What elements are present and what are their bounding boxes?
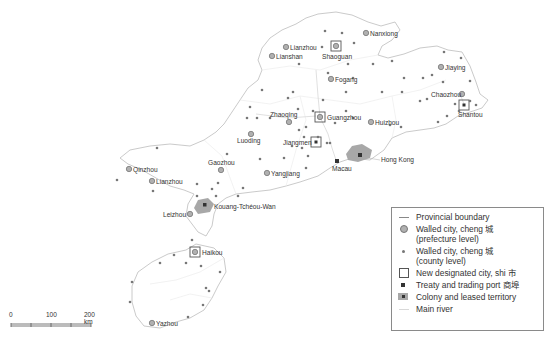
circle-icon	[398, 224, 410, 234]
svg-text:Lianshan: Lianshan	[276, 53, 303, 60]
scale-tick-200: 200 km	[84, 311, 95, 325]
svg-text:Luoding: Luoding	[237, 137, 261, 145]
scale-tick-100: 100	[46, 311, 57, 318]
legend-item-river: Main river	[398, 304, 543, 314]
svg-text:Qinzhou: Qinzhou	[133, 166, 158, 174]
svg-text:Yangjiang: Yangjiang	[271, 170, 300, 178]
svg-text:Shantou: Shantou	[458, 111, 483, 118]
svg-text:Leizhou: Leizhou	[163, 211, 186, 218]
svg-text:Zhaoqing: Zhaoqing	[270, 111, 298, 119]
label-hong-kong: Hong Kong	[381, 156, 414, 164]
svg-text:Chaozhou: Chaozhou	[431, 91, 461, 98]
svg-text:Yazhou: Yazhou	[156, 320, 178, 327]
line-icon	[398, 212, 410, 222]
river-line-icon	[398, 304, 410, 314]
hainan-boundary	[132, 244, 226, 328]
legend-item-colony: Colony and leased territory	[398, 292, 543, 302]
scale-tick-0: 0	[9, 311, 13, 318]
svg-text:Fogang: Fogang	[335, 76, 358, 84]
legend-item-prefecture: Walled city, cheng 城(prefecture level)	[398, 224, 543, 244]
square-icon	[398, 268, 410, 278]
legend-item-port: Treaty and trading port 商埠	[398, 280, 543, 290]
svg-text:Haikou: Haikou	[202, 249, 223, 256]
legend-item-county: Walled city, cheng 城(county level)	[398, 246, 543, 266]
legend-item-boundary: Provincial boundary	[398, 212, 543, 222]
scale-bar: 0 100 200 km	[10, 322, 94, 334]
svg-text:Jiangmen: Jiangmen	[283, 139, 312, 147]
svg-text:Lianzhou: Lianzhou	[290, 44, 317, 51]
svg-text:Nanxiong: Nanxiong	[370, 30, 398, 38]
filled-square-icon	[398, 280, 410, 290]
dot-icon	[398, 246, 410, 256]
legend-item-shi: New designated city, shi 市	[398, 268, 543, 278]
scale-bar-graphic	[10, 322, 94, 328]
svg-text:Shaoguan: Shaoguan	[322, 53, 352, 61]
map-legend: Provincial boundary Walled city, cheng 城…	[391, 207, 544, 331]
svg-text:Lianzhou: Lianzhou	[156, 178, 183, 185]
svg-text:Huizhou: Huizhou	[375, 119, 400, 126]
svg-text:Gaozhou: Gaozhou	[208, 159, 235, 166]
svg-text:Jiaying: Jiaying	[445, 64, 466, 72]
colony-kouang-tcheou-wan: Kouang-Tchéou-Wan	[194, 198, 276, 214]
shaded-area-icon	[398, 292, 410, 302]
svg-text:Guangzhou: Guangzhou	[327, 114, 361, 122]
label-kouang-tcheou-wan: Kouang-Tchéou-Wan	[214, 203, 276, 211]
label-macau: Macau	[332, 165, 352, 172]
